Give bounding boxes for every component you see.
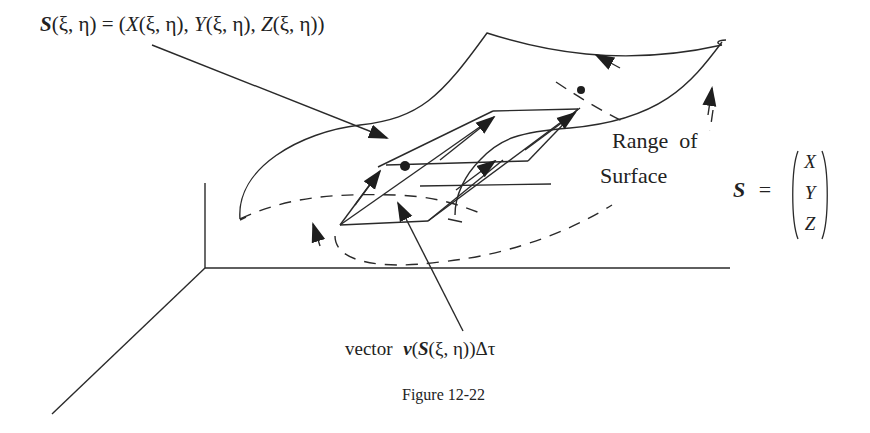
close-paren: ) bbox=[318, 12, 325, 36]
vector-pointer bbox=[398, 203, 463, 331]
sep: , bbox=[184, 12, 195, 36]
args: (ξ, η) bbox=[206, 12, 251, 36]
symbol-z: Z bbox=[261, 12, 273, 36]
matrix-lhs: S = bbox=[733, 177, 771, 203]
symbol-s: S bbox=[733, 177, 745, 202]
args: (ξ, η))Δτ bbox=[429, 338, 496, 359]
figure-canvas: S(ξ, η) = (X(ξ, η), Y(ξ, η), Z(ξ, η)) Ra… bbox=[0, 0, 870, 433]
equals: = bbox=[759, 177, 771, 202]
column-vector: X Y Z bbox=[790, 149, 830, 241]
range-label-line1: Range of bbox=[612, 128, 698, 154]
coordinate-axes bbox=[52, 183, 730, 414]
symbol-y: Y bbox=[194, 12, 206, 36]
matrix-entry-x: X bbox=[790, 151, 830, 173]
formula-pointer bbox=[152, 45, 387, 138]
symbol-s: S bbox=[40, 12, 52, 36]
args: (ξ, η) bbox=[52, 12, 97, 36]
vector-label: vector v(S(ξ, η))Δτ bbox=[345, 338, 495, 360]
equals: = ( bbox=[97, 12, 126, 36]
flowed-point bbox=[577, 86, 585, 94]
surface-parametrization-label: S(ξ, η) = (X(ξ, η), Y(ξ, η), Z(ξ, η)) bbox=[40, 12, 325, 37]
figure-caption: Figure 12-22 bbox=[402, 386, 485, 404]
args: (ξ, η) bbox=[273, 12, 318, 36]
surface-diagram bbox=[0, 0, 870, 433]
matrix-entry-z: Z bbox=[790, 213, 830, 235]
args: (ξ, η) bbox=[139, 12, 184, 36]
symbol-v: v bbox=[403, 338, 411, 359]
sep: , bbox=[251, 12, 262, 36]
flow-parallelogram bbox=[340, 108, 580, 225]
symbol-s: S bbox=[418, 338, 429, 359]
symbol-x: X bbox=[126, 12, 139, 36]
matrix-entry-y: Y bbox=[790, 182, 830, 204]
vector-word: vector bbox=[345, 338, 392, 359]
range-label-line2: Surface bbox=[600, 163, 667, 189]
surface-point bbox=[400, 161, 410, 171]
